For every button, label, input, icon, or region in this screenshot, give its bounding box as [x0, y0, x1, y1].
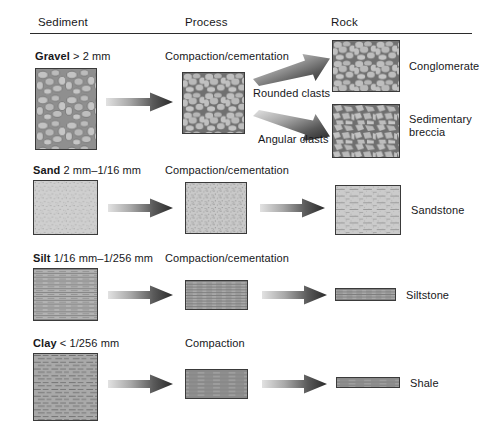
process-label-sand: Compaction/cementation [165, 164, 289, 177]
process-box-gravel [182, 72, 245, 134]
rock-arrow-sand [260, 198, 326, 218]
sediment-label-sand: Sand 2 mm–1/16 mm [33, 164, 141, 177]
sediment-size-sand: 2 mm–1/16 mm [63, 164, 141, 176]
process-box-clay [185, 369, 248, 399]
process-box-silt [185, 280, 248, 310]
process-arrow-gravel [106, 92, 174, 112]
process-arrow-clay [108, 374, 174, 394]
header-divider-rule [30, 33, 472, 34]
rock-label-shale: Shale [410, 377, 439, 390]
rock-label-siltstone: Siltstone [406, 289, 449, 302]
column-header-sediment: Sediment [38, 16, 88, 28]
sediment-label-gravel: Gravel > 2 mm [35, 50, 111, 63]
rock-label-sandstone: Sandstone [411, 204, 465, 217]
branch-arrow-rounded-clasts [253, 52, 331, 86]
rock-box-sandstone [335, 185, 401, 235]
column-header-rock: Rock [331, 16, 358, 28]
sediment-label-clay: Clay < 1/256 mm [33, 337, 119, 350]
rock-box-shale [336, 377, 400, 388]
process-arrow-sand [108, 198, 174, 218]
rock-label-sedimentary-breccia: Sedimentary breccia [409, 113, 487, 138]
sediment-size-clay: < 1/256 mm [60, 337, 119, 349]
sediment-name-sand: Sand [33, 164, 60, 176]
branch-label-rounded-clasts: Rounded clasts [253, 87, 330, 100]
sediment-label-silt: Silt 1/16 mm–1/256 mm [33, 252, 153, 265]
process-label-clay: Compaction [185, 337, 245, 350]
sediment-name-clay: Clay [33, 337, 57, 349]
sediment-name-silt: Silt [33, 252, 51, 264]
rock-label-conglomerate: Conglomerate [409, 60, 479, 73]
column-header-process: Process [185, 16, 228, 28]
sediment-box-gravel [35, 68, 97, 150]
sediment-box-silt [33, 268, 98, 321]
rock-box-sedimentary-breccia [332, 104, 400, 158]
rock-box-siltstone [335, 288, 396, 301]
sediment-size-silt: 1/16 mm–1/256 mm [54, 252, 153, 264]
rock-arrow-clay [262, 374, 328, 394]
process-box-sand [185, 182, 247, 234]
rock-box-conglomerate [332, 40, 400, 92]
sediment-box-clay [33, 353, 98, 421]
branch-label-angular-clasts: Angular clasts [258, 133, 329, 146]
sediment-box-sand [33, 180, 98, 235]
sediment-name-gravel: Gravel [35, 50, 70, 62]
sediment-size-gravel: > 2 mm [73, 50, 111, 62]
rock-arrow-silt [262, 285, 328, 305]
process-arrow-silt [108, 285, 174, 305]
diagram-canvas: Sediment Process Rock Gravel > 2 mm Comp… [0, 0, 491, 438]
process-label-silt: Compaction/cementation [165, 252, 289, 265]
